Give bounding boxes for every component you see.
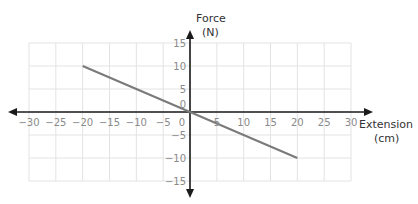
y-axis-down-arrow-icon [186, 189, 194, 198]
x-tick-label: 20 [291, 117, 304, 128]
x-tick-label: 0 [179, 117, 185, 128]
x-tick-label: −15 [99, 117, 120, 128]
y-tick-label: 5 [180, 84, 186, 95]
x-tick-label: 5 [214, 117, 220, 128]
x-axis-right-arrow-icon [364, 108, 373, 116]
y-tick-label: −10 [165, 153, 186, 164]
x-axis-left-arrow-icon [8, 108, 17, 116]
y-tick-label: −5 [171, 130, 186, 141]
x-axis-label-line2: (cm) [374, 132, 399, 145]
x-tick-label: 30 [345, 117, 358, 128]
x-tick-label: −30 [18, 117, 39, 128]
x-tick-label: 25 [318, 117, 331, 128]
y-axis-up-arrow-icon [186, 30, 194, 39]
y-tick-label: 0 [180, 99, 186, 110]
x-tick-label: −5 [156, 117, 171, 128]
force-extension-chart: −30−25−20−15−10−5051015202530−15−10−5051… [0, 0, 418, 204]
y-tick-label: 10 [173, 61, 186, 72]
y-axis-label-line2: (N) [202, 26, 219, 39]
y-tick-label: 15 [173, 38, 186, 49]
y-tick-label: −15 [165, 176, 186, 187]
y-axis-label-line1: Force [196, 12, 226, 25]
x-tick-label: −20 [72, 117, 93, 128]
x-tick-label: −25 [45, 117, 66, 128]
x-tick-label: 10 [237, 117, 250, 128]
x-tick-label: 15 [264, 117, 277, 128]
x-axis-label-line1: Extension [359, 118, 413, 131]
x-tick-label: −10 [126, 117, 147, 128]
axes [8, 30, 373, 198]
